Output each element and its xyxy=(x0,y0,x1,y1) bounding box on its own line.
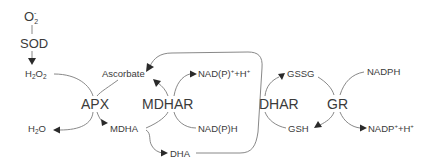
superoxide-label: O2- xyxy=(24,9,38,25)
nadph-mdhar-label: NAD(P)H xyxy=(198,123,238,134)
h2o-label: H2O xyxy=(28,123,46,135)
ascorbate-arrowhead-mdhar-icon xyxy=(153,79,161,87)
dha-arrowhead-icon xyxy=(161,150,168,157)
dhar-enzyme-label: DHAR xyxy=(259,96,299,112)
dha-label: DHA xyxy=(170,148,191,159)
nadph-to-gr-curve xyxy=(340,72,364,95)
ascorbate-arrowhead-dhar-icon xyxy=(146,63,154,72)
nadp-plus-h-label: NAD(P)++H+ xyxy=(198,68,251,79)
sod-arrowhead-icon xyxy=(28,58,36,65)
nadp-right-arrowhead-icon xyxy=(360,125,367,132)
nadph-to-mdhar-curve xyxy=(174,112,196,128)
gr-to-nadp-curve xyxy=(340,112,360,128)
gssg-label: GSSG xyxy=(287,68,314,79)
nadp-arrowhead-icon xyxy=(190,71,197,78)
nadph-label: NADPH xyxy=(367,66,400,77)
h2o2-label: H2O2 xyxy=(25,68,47,80)
ascorbate-glutathione-cycle-diagram: O2- SOD H2O2 Ascorbate APX H2O MDHA MDHA… xyxy=(0,0,435,168)
mdhar-enzyme-label: MDHAR xyxy=(142,96,193,112)
apx-to-h2o-curve xyxy=(60,112,93,130)
dhar-to-gssg-curve xyxy=(265,77,279,96)
mdha-arrowhead-icon xyxy=(101,119,108,126)
nadp-plus-h-right-label: NADP++H+ xyxy=(368,123,414,134)
apx-enzyme-label: APX xyxy=(81,96,110,112)
gsh-to-dhar-curve xyxy=(265,112,286,128)
ascorbate-to-apx-curve xyxy=(97,80,118,96)
mdha-to-mdhar-curve xyxy=(146,112,168,128)
h2o-arrowhead-icon xyxy=(53,127,60,134)
mdha-to-dha-curve xyxy=(146,130,162,153)
mdhar-to-nadp-curve xyxy=(174,74,190,96)
gsh-label: GSH xyxy=(288,123,309,134)
mdha-label: MDHA xyxy=(110,123,139,134)
sod-label: SOD xyxy=(20,36,48,51)
gr-to-gsh-curve xyxy=(320,112,334,125)
gssg-to-gr-curve xyxy=(318,77,334,95)
gr-enzyme-label: GR xyxy=(327,96,348,112)
mdhar-to-ascorbate-curve xyxy=(158,83,168,96)
gssg-arrowhead-icon xyxy=(278,73,285,80)
h2o2-to-apx-curve xyxy=(54,74,93,96)
ascorbate-label: Ascorbate xyxy=(102,68,145,79)
